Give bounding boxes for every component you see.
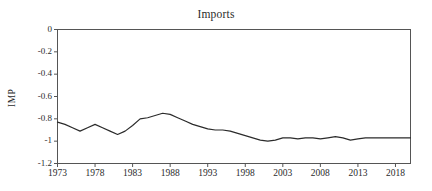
x-tick-label: 2013	[338, 168, 378, 178]
x-tick-label: 2018	[375, 168, 415, 178]
x-tick-label: 2008	[300, 168, 340, 178]
x-tick-label: 1978	[75, 168, 115, 178]
x-tick-label: 1983	[113, 168, 153, 178]
chart-figure: Imports IMP 0-0.2-0.4-0.6-0.8-1-1.2 1973…	[0, 0, 432, 191]
x-tick-label: 1988	[150, 168, 190, 178]
x-tick-label: 1998	[225, 168, 265, 178]
x-tick-label: 1993	[188, 168, 228, 178]
x-tick-label: 1973	[38, 168, 78, 178]
x-tick-labels: 1973197819831988199319982003200820132018	[0, 0, 432, 191]
x-tick-label: 2003	[263, 168, 303, 178]
